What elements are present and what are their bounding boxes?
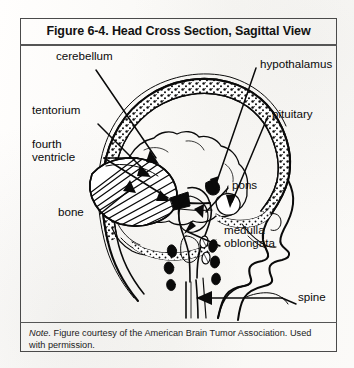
- label-fourth-ventricle-line2: ventricle: [32, 151, 75, 164]
- note-prefix: Note.: [29, 328, 51, 338]
- label-cerebellum: cerebellum: [56, 50, 113, 63]
- anatomical-illustration: cerebellum tentorium fourth ventricle bo…: [20, 46, 337, 322]
- label-tentorium: tentorium: [32, 104, 80, 117]
- label-fourth-ventricle-line1: fourth: [32, 138, 62, 151]
- figure-note-bar: Note. Figure courtesy of the American Br…: [20, 322, 337, 352]
- page-title: Figure 6-4. Head Cross Section, Sagittal…: [46, 24, 310, 38]
- label-bone: bone: [58, 206, 84, 219]
- note-body: Figure courtesy of the American Brain Tu…: [29, 328, 311, 350]
- label-medulla-line2: oblongata: [224, 237, 275, 250]
- figure-page: Figure 6-4. Head Cross Section, Sagittal…: [0, 0, 354, 368]
- label-spine: spine: [298, 291, 326, 304]
- label-pituitary: pituitary: [272, 108, 313, 121]
- label-medulla-line1: medulla: [224, 224, 265, 237]
- figure-title-bar: Figure 6-4. Head Cross Section, Sagittal…: [20, 18, 337, 46]
- figure-note: Note. Figure courtesy of the American Br…: [29, 328, 328, 351]
- label-hypothalamus: hypothalamus: [260, 58, 332, 71]
- label-pons: pons: [232, 179, 257, 192]
